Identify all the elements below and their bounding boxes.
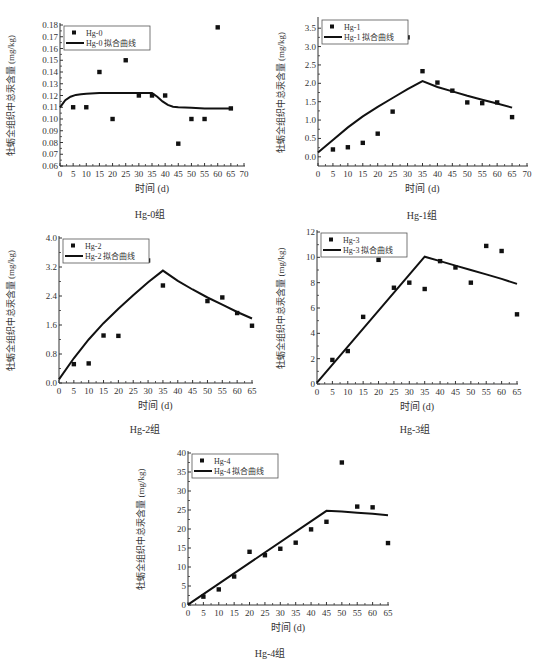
data-point [116,334,120,338]
chart-caption: Hg-0组 [110,206,190,221]
y-tick-label: 15 [177,543,187,553]
chart-caption: Hg-2组 [105,421,185,436]
data-point [232,574,236,578]
chart-svg: 0.00.51.01.52.02.53.03.50510152025303540… [270,0,538,222]
y-tick-label: 0.11 [43,102,58,112]
x-tick-label: 40 [436,387,446,397]
legend-label: Hg-4 [214,457,230,466]
x-tick-label: 15 [358,169,368,179]
data-point [163,93,167,97]
data-point [220,295,224,299]
x-tick-label: 25 [121,169,131,179]
x-tick-label: 35 [418,169,428,179]
legend-label: Hg-2 [85,242,101,251]
data-point [202,117,206,121]
x-tick-label: 45 [188,386,198,396]
y-tick-label: 2.4 [46,291,58,301]
legend-label: Hg-3 [343,236,359,245]
x-tick-label: 25 [389,387,399,397]
y-tick-label: 4.0 [46,233,58,243]
y-axis-label: 牡蛎全组织中总汞含量 (mg/kg) [275,247,286,368]
y-axis-label: 牡蛎全组织中总汞含量 (mg/kg) [5,250,16,371]
data-point [438,259,442,263]
x-tick-label: 60 [493,169,503,179]
y-tick-label: 0.18 [42,20,58,30]
y-tick-label: 1.0 [305,115,317,125]
x-tick-label: 0 [58,169,63,179]
x-tick-label: 10 [343,169,353,179]
y-tick-label: 0.15 [42,55,58,65]
y-tick-label: 1.5 [305,97,317,107]
y-tick-label: 10 [306,252,316,262]
data-point [101,333,105,337]
data-point [216,25,220,29]
y-tick-label: 0.0 [46,378,58,388]
data-point [346,349,350,353]
data-point [97,70,101,74]
x-tick-label: 20 [374,387,384,397]
chart-caption: Hg-1组 [382,207,462,222]
legend-marker-icon [330,25,334,29]
data-point [161,283,165,287]
x-tick-label: 10 [82,169,92,179]
y-tick-label: 0.5 [305,133,317,143]
legend-label: Hg-2 拟合曲线 [85,251,135,261]
chart-hg4: 0510152025303540051015202530354045505560… [130,440,410,672]
data-point [309,527,313,531]
data-point [217,587,221,591]
x-tick-label: 30 [134,169,144,179]
legend-label: Hg-0 拟合曲线 [86,38,136,48]
data-point [361,315,365,319]
x-tick-label: 10 [84,386,94,396]
x-tick-label: 65 [248,386,258,396]
chart-hg2: 0.00.81.62.43.24.00510152025303540455055… [0,225,270,440]
legend-label: Hg-3 拟合曲线 [343,245,393,255]
y-tick-label: 30 [177,486,187,496]
x-tick-label: 15 [95,169,105,179]
data-point [201,594,205,598]
x-tick-label: 55 [482,387,492,397]
y-tick-label: 4 [311,328,316,338]
x-tick-label: 20 [245,608,255,618]
x-axis-label: 时间 (d) [138,399,172,412]
fit-curve [317,257,517,383]
x-tick-label: 65 [513,387,523,397]
y-tick-label: 2.0 [305,78,317,88]
fit-curve [318,81,512,152]
data-point [229,106,233,110]
x-tick-label: 30 [405,387,415,397]
chart-hg1: 0.00.51.01.52.02.53.03.50510152025303540… [270,0,538,222]
x-tick-label: 35 [148,169,158,179]
y-tick-label: 3.5 [305,23,317,33]
legend-marker-icon [329,238,333,242]
data-point [355,504,359,508]
y-tick-label: 12 [306,227,315,237]
y-tick-label: 35 [177,467,187,477]
legend: Hg-2Hg-2 拟合曲线 [63,239,149,263]
data-point [480,101,484,105]
x-tick-label: 40 [433,169,443,179]
y-tick-label: 20 [177,524,187,534]
data-point [420,69,424,73]
x-axis-label: 时间 (d) [405,182,439,195]
data-point [331,147,335,151]
data-point [469,280,473,284]
x-tick-label: 55 [478,169,488,179]
y-tick-label: 0.16 [42,44,58,54]
x-tick-label: 5 [72,386,77,396]
x-tick-label: 70 [240,169,250,179]
y-tick-label: 8 [311,278,316,288]
data-point [495,100,499,104]
x-tick-label: 5 [71,169,76,179]
x-tick-label: 55 [200,169,210,179]
data-point [392,286,396,290]
x-tick-label: 65 [384,608,394,618]
data-point [84,105,88,109]
data-point [370,505,374,509]
data-point [422,287,426,291]
x-tick-label: 60 [213,169,223,179]
x-tick-label: 0 [186,608,191,618]
x-tick-label: 5 [330,387,335,397]
data-point [189,117,193,121]
y-tick-label: 0.14 [42,67,58,77]
